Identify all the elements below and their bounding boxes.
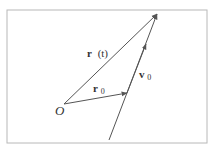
kinematics-diagram: O r (t) r 0 v 0 [0, 0, 212, 145]
position-vector-rt [64, 14, 157, 104]
velocity-0-label: v 0 [139, 68, 151, 82]
frame-border [7, 10, 207, 143]
origin-label: O [55, 103, 65, 118]
position-t-label: r (t) [87, 47, 108, 60]
position-t-symbol: r [87, 47, 92, 59]
position-0-symbol: r [93, 82, 98, 94]
position-t-arg: (t) [98, 47, 109, 60]
position-0-label: r 0 [93, 82, 105, 96]
velocity-0-symbol: v [139, 68, 145, 80]
position-0-sub: 0 [101, 87, 105, 96]
velocity-0-sub: 0 [147, 73, 151, 82]
